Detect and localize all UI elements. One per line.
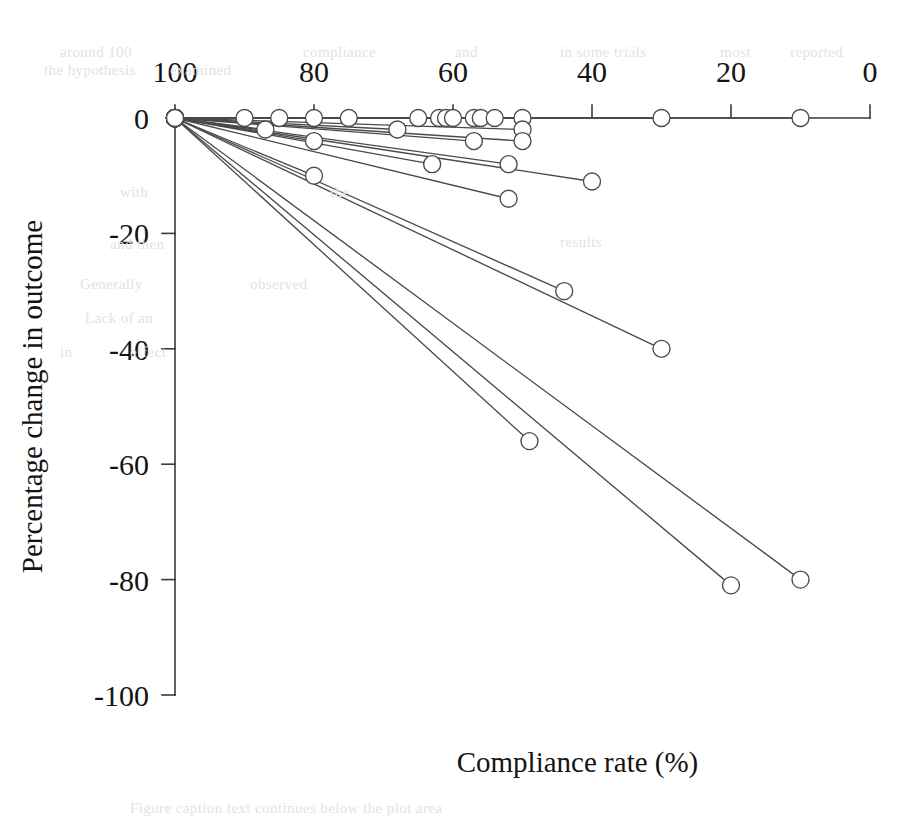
data-point-marker	[500, 156, 517, 173]
data-point-marker	[271, 110, 288, 127]
data-point-marker	[584, 173, 601, 190]
data-point-marker	[723, 577, 740, 594]
y-tick-label: -80	[109, 564, 149, 597]
data-point-marker	[514, 133, 531, 150]
data-point-marker	[465, 133, 482, 150]
page-showthrough-text: Generally	[80, 276, 143, 293]
data-point-marker	[500, 190, 517, 207]
data-point-marker	[521, 433, 538, 450]
y-tick-label: 0	[134, 102, 149, 135]
data-point-marker	[445, 110, 462, 127]
data-point-marker	[340, 110, 357, 127]
x-axis-title: Compliance rate (%)	[457, 746, 699, 779]
data-point-marker	[653, 110, 670, 127]
page-showthrough-text: most	[720, 44, 751, 61]
page-showthrough-text: and	[455, 44, 478, 61]
page-showthrough-text: examined	[170, 62, 232, 79]
page-showthrough-text: Figure caption text continues below the …	[130, 800, 442, 816]
page-showthrough-text: compliance	[303, 44, 376, 61]
chart-canvas: 1008060402000-20-40-60-80-100Compliance …	[0, 0, 907, 816]
data-point-marker	[653, 340, 670, 357]
data-point-marker	[236, 110, 253, 127]
data-point-marker	[306, 110, 323, 127]
series-line	[175, 118, 731, 585]
page-showthrough-text: Lack of an	[85, 310, 153, 327]
y-tick-label: -100	[94, 679, 149, 712]
page-showthrough-text: the	[330, 184, 350, 201]
data-point-marker	[306, 133, 323, 150]
page-showthrough-text: around 100	[60, 44, 132, 61]
data-point-marker	[410, 110, 427, 127]
page-showthrough-text: effect	[130, 344, 166, 361]
data-point-marker	[424, 156, 441, 173]
data-point-marker	[556, 283, 573, 300]
y-axis-title: Percentage change in outcome	[16, 220, 48, 573]
axis-labels-group: 1008060402000-20-40-60-80-100Compliance …	[16, 55, 878, 779]
page-showthrough-text: with	[120, 184, 148, 201]
data-point-marker	[792, 571, 809, 588]
series-line	[175, 118, 529, 441]
data-point-marker	[306, 167, 323, 184]
page-showthrough-text: and then	[110, 236, 164, 253]
page-showthrough-text: observed	[250, 276, 307, 293]
x-tick-label: 0	[863, 55, 878, 88]
data-point-marker	[257, 121, 274, 138]
data-point-marker	[167, 110, 184, 127]
page-showthrough-text: in some trials	[560, 44, 646, 61]
series-line	[175, 118, 801, 580]
data-point-marker	[792, 110, 809, 127]
y-tick-label: -60	[109, 448, 149, 481]
page-showthrough-text: the hypothesis	[44, 62, 136, 79]
data-point-marker	[486, 110, 503, 127]
page-showthrough-text: results	[560, 234, 602, 251]
data-point-marker	[389, 121, 406, 138]
data-series-group	[167, 110, 810, 594]
figure-container: 1008060402000-20-40-60-80-100Compliance …	[0, 0, 907, 816]
page-showthrough-text: in	[60, 344, 72, 361]
page-showthrough-text: reported	[790, 44, 843, 61]
